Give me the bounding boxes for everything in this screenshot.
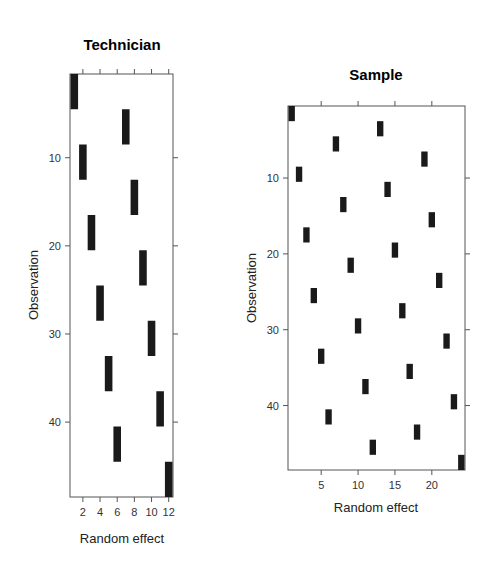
- effect-block: [421, 152, 427, 167]
- effect-block: [113, 427, 121, 462]
- y-tick-label: 20: [267, 248, 279, 260]
- x-tick-label: 2: [80, 506, 86, 518]
- effect-block: [311, 288, 317, 303]
- effect-block: [296, 167, 302, 182]
- technician-title: Technician: [83, 36, 160, 53]
- x-tick-label: 10: [352, 479, 364, 491]
- effect-block: [105, 356, 113, 391]
- x-tick-label: 6: [114, 506, 120, 518]
- effect-block: [96, 286, 104, 321]
- effect-block: [348, 258, 354, 273]
- x-tick-label: 4: [97, 506, 103, 518]
- y-tick-label: 30: [49, 328, 61, 340]
- x-tick-label: 20: [426, 479, 438, 491]
- effect-block: [156, 391, 164, 426]
- effect-block: [289, 106, 295, 121]
- y-tick-label: 30: [267, 324, 279, 336]
- technician-panel: Technician 24681012 10203040 Random effe…: [26, 36, 178, 546]
- effect-block: [148, 321, 156, 356]
- effect-block: [303, 227, 309, 242]
- effect-block: [165, 462, 173, 497]
- effect-block: [458, 455, 464, 470]
- effect-block: [429, 212, 435, 227]
- sample-x-label: Random effect: [334, 500, 419, 515]
- effect-block: [71, 74, 79, 109]
- effect-block: [384, 182, 390, 197]
- sample-title: Sample: [349, 66, 402, 83]
- chart-canvas: Technician 24681012 10203040 Random effe…: [0, 0, 497, 565]
- effect-block: [122, 109, 130, 144]
- effect-block: [131, 180, 139, 215]
- effect-block: [139, 250, 147, 285]
- effect-block: [370, 440, 376, 455]
- x-tick-label: 5: [318, 479, 324, 491]
- y-tick-label: 10: [49, 152, 61, 164]
- y-tick-label: 20: [49, 240, 61, 252]
- effect-block: [333, 136, 339, 151]
- effect-block: [325, 409, 331, 424]
- x-tick-label: 8: [131, 506, 137, 518]
- effect-block: [443, 334, 449, 349]
- effect-block: [392, 243, 398, 258]
- technician-plot-frame: [70, 74, 173, 497]
- effect-block: [407, 364, 413, 379]
- x-tick-label: 15: [389, 479, 401, 491]
- effect-block: [355, 318, 361, 333]
- technician-x-label: Random effect: [80, 531, 165, 546]
- effect-block: [88, 215, 96, 250]
- effect-block: [451, 394, 457, 409]
- technician-y-label: Observation: [26, 250, 41, 320]
- effect-block: [414, 425, 420, 440]
- x-tick-label: 10: [145, 506, 157, 518]
- y-tick-label: 10: [267, 172, 279, 184]
- effect-block: [436, 273, 442, 288]
- effect-block: [79, 145, 87, 180]
- sample-panel: Sample 5101520 10203040 Random effect Ob…: [244, 66, 470, 515]
- effect-block: [362, 379, 368, 394]
- effect-block: [340, 197, 346, 212]
- effect-block: [377, 121, 383, 136]
- x-tick-label: 12: [163, 506, 175, 518]
- effect-block: [318, 349, 324, 364]
- y-tick-label: 40: [49, 416, 61, 428]
- effect-block: [399, 303, 405, 318]
- y-tick-label: 40: [267, 400, 279, 412]
- sample-y-label: Observation: [244, 253, 259, 323]
